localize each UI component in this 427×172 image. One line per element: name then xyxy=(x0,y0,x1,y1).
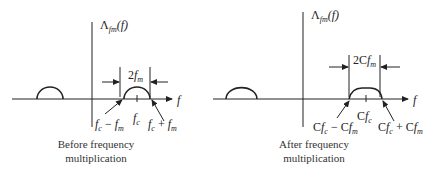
y-axis-label: Λfm(f) xyxy=(100,18,128,34)
bandwidth-label: 2fm xyxy=(128,68,143,84)
x-axis-label: f xyxy=(413,93,418,107)
center-frequency-label: Cfc xyxy=(357,109,372,125)
caption-line-1: Before frequency xyxy=(58,138,135,150)
x-axis-label: f xyxy=(177,93,182,107)
frequency-multiplication-diagram: Λfm(f) f 2fm fc fc − fm fc + fm Before f… xyxy=(0,0,427,172)
center-frequency-label: fc xyxy=(133,111,140,127)
panel-before: Λfm(f) f 2fm fc fc − fm fc + fm Before f… xyxy=(12,18,182,164)
lower-edge-label: Cfc − Cfm xyxy=(313,120,358,136)
caption-line-2: multiplication xyxy=(283,152,345,164)
upper-edge-label: Cfc + Cfm xyxy=(378,120,423,136)
upper-edge-label: fc + fm xyxy=(148,117,177,133)
negative-spectrum-lobe xyxy=(37,87,63,99)
negative-spectrum-lobe xyxy=(226,88,257,99)
lower-edge-pointer xyxy=(105,100,122,114)
lower-edge-label: fc − fm xyxy=(95,117,124,133)
caption-line-2: multiplication xyxy=(65,152,127,164)
panel-after: Λfm(f) f 2Cfm Cfc Cfc − Cfm Cfc + Cfm Af… xyxy=(213,8,423,164)
caption-line-1: After frequency xyxy=(279,138,349,150)
upper-edge-pointer xyxy=(383,101,394,121)
lower-edge-pointer xyxy=(337,101,349,118)
y-axis-label: Λfm(f) xyxy=(311,8,339,24)
bandwidth-label: 2Cfm xyxy=(353,53,376,69)
